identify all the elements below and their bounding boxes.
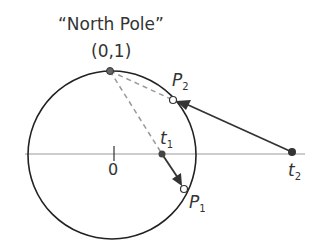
t1-point [159, 151, 166, 158]
t2-point [288, 148, 296, 156]
north-pole-point [107, 68, 114, 75]
origin-label: 0 [108, 160, 118, 179]
north-pole-title: “North Pole” [58, 14, 164, 34]
t1-label: t1 [160, 128, 173, 150]
p1-point [181, 186, 188, 193]
p2-point [170, 97, 177, 104]
t2-label: t2 [288, 160, 301, 182]
p2-label: P2 [172, 70, 189, 92]
dashed-line-north-p2 [110, 71, 173, 100]
arrow-t2-to-p2 [186, 104, 292, 152]
north-pole-coordinate: (0,1) [91, 41, 131, 61]
unit-circle [28, 71, 196, 239]
arrow-t1-to-p1 [162, 154, 178, 178]
p1-label: P1 [189, 192, 206, 214]
stereographic-projection-diagram [0, 0, 317, 251]
